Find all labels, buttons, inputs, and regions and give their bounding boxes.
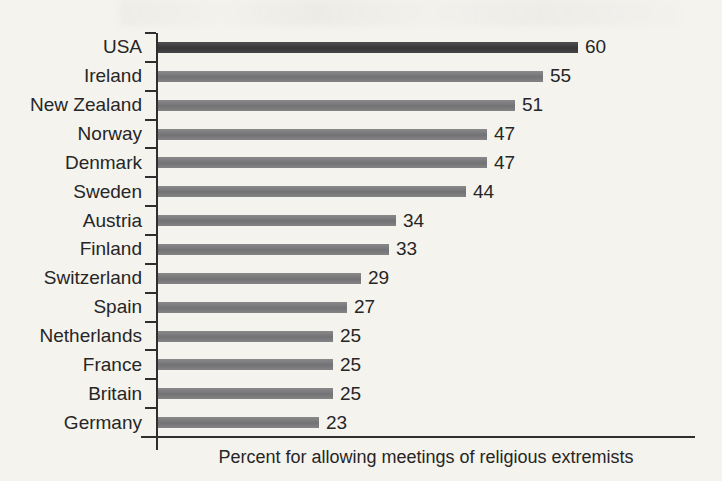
value-label: 51: [522, 94, 543, 116]
y-axis-tick: [145, 234, 156, 236]
bar: [158, 186, 466, 197]
chart-row: Finland33: [0, 235, 722, 264]
chart-row: New Zealand51: [0, 91, 722, 120]
value-label: 33: [396, 238, 417, 260]
value-label: 55: [550, 65, 571, 87]
value-label: 25: [340, 383, 361, 405]
category-label: Germany: [0, 412, 158, 434]
y-axis-tick: [145, 292, 156, 294]
bar: [158, 129, 487, 140]
bar: [158, 359, 333, 370]
value-label: 34: [403, 210, 424, 232]
category-label: Netherlands: [0, 325, 158, 347]
chart-row: France25: [0, 350, 722, 379]
chart-row: Sweden44: [0, 177, 722, 206]
bar: [158, 302, 347, 313]
chart-row: Denmark47: [0, 148, 722, 177]
y-axis-tick: [145, 205, 156, 207]
y-axis-tick: [145, 90, 156, 92]
bar: [158, 417, 319, 428]
value-label: 44: [473, 181, 494, 203]
bar-chart: USA60Ireland55New Zealand51Norway47Denma…: [0, 0, 722, 481]
bar: [158, 388, 333, 399]
value-label: 47: [494, 123, 515, 145]
category-label: Austria: [0, 210, 158, 232]
category-label: Spain: [0, 296, 158, 318]
scanned-page: USA60Ireland55New Zealand51Norway47Denma…: [0, 0, 722, 481]
value-label: 25: [340, 325, 361, 347]
chart-row: Austria34: [0, 206, 722, 235]
chart-row: Britain25: [0, 379, 722, 408]
category-label: Switzerland: [0, 267, 158, 289]
y-axis-tick: [145, 176, 156, 178]
y-axis-tick: [145, 32, 156, 34]
value-label: 27: [354, 296, 375, 318]
category-label: Sweden: [0, 181, 158, 203]
value-label: 29: [368, 267, 389, 289]
chart-row: Norway47: [0, 120, 722, 149]
y-axis-line: [156, 33, 158, 450]
bar: [158, 100, 515, 111]
bar: [158, 215, 396, 226]
category-label: Norway: [0, 123, 158, 145]
category-label: New Zealand: [0, 94, 158, 116]
chart-rows: USA60Ireland55New Zealand51Norway47Denma…: [0, 33, 722, 437]
y-axis-tick: [145, 263, 156, 265]
category-label: Ireland: [0, 65, 158, 87]
bar: [158, 71, 543, 82]
value-label: 23: [326, 412, 347, 434]
y-axis-tick: [145, 61, 156, 63]
value-label: 47: [494, 152, 515, 174]
bar: [158, 157, 487, 168]
chart-row: Spain27: [0, 293, 722, 322]
x-axis-line: [141, 436, 695, 438]
bar: [158, 42, 578, 53]
category-label: Denmark: [0, 152, 158, 174]
y-axis-tick: [145, 321, 156, 323]
chart-row: Switzerland29: [0, 264, 722, 293]
y-axis-tick: [145, 407, 156, 409]
category-label: Finland: [0, 238, 158, 260]
bar: [158, 244, 389, 255]
value-label: 60: [585, 36, 606, 58]
value-label: 25: [340, 354, 361, 376]
chart-row: Ireland55: [0, 62, 722, 91]
x-axis-label: Percent for allowing meetings of religio…: [157, 447, 695, 468]
chart-row: USA60: [0, 33, 722, 62]
chart-row: Netherlands25: [0, 322, 722, 351]
chart-row: Germany23: [0, 408, 722, 437]
category-label: Britain: [0, 383, 158, 405]
y-axis-tick: [145, 147, 156, 149]
bar: [158, 273, 361, 284]
category-label: USA: [0, 36, 158, 58]
bar: [158, 331, 333, 342]
category-label: France: [0, 354, 158, 376]
y-axis-tick: [145, 119, 156, 121]
y-axis-tick: [145, 378, 156, 380]
y-axis-tick: [145, 349, 156, 351]
